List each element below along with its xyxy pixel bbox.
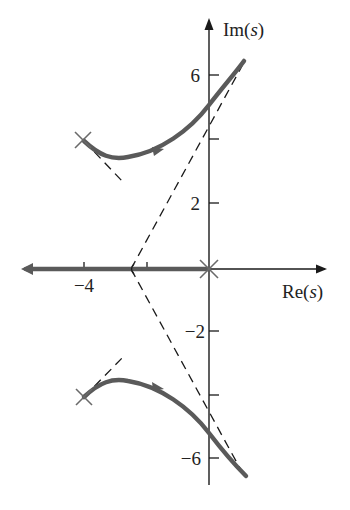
real-axis-label-main: Re [282, 281, 303, 302]
locus-lower-branch [84, 380, 246, 476]
y-tick-label-2: 2 [191, 193, 201, 214]
imag-axis-label: Im(s) [223, 19, 264, 41]
lower-branch-arrow-icon [152, 382, 164, 391]
asymptote-upper [131, 66, 242, 269]
real-axis-arrow-icon [316, 265, 327, 274]
root-locus-plot: −4 6 2 −2 −6 Im(s) Re(s) [0, 0, 350, 510]
real-axis-label-rparen: ) [317, 281, 323, 303]
y-tick-label-minus2: −2 [185, 321, 205, 342]
real-axis-label: Re(s) [282, 281, 323, 303]
x-tick-label-minus4: −4 [74, 275, 95, 296]
imag-axis-arrow-icon [205, 18, 214, 30]
y-tick-label-6: 6 [191, 65, 201, 86]
pole-lower-icon [76, 389, 92, 405]
imag-axis-label-main: Im [223, 19, 244, 40]
pole-upper-icon [75, 132, 91, 148]
axes [30, 18, 327, 485]
asymptote-lower [131, 269, 242, 472]
locus-upper-branch [84, 61, 244, 158]
imag-axis-label-rparen: ) [258, 19, 264, 41]
real-axis-label-var: s [309, 281, 316, 302]
real-axis-locus-arrow-icon [21, 263, 33, 275]
upper-branch-arrow-icon [152, 147, 164, 156]
imag-axis-label-var: s [250, 19, 257, 40]
y-tick-label-minus6: −6 [181, 448, 201, 469]
